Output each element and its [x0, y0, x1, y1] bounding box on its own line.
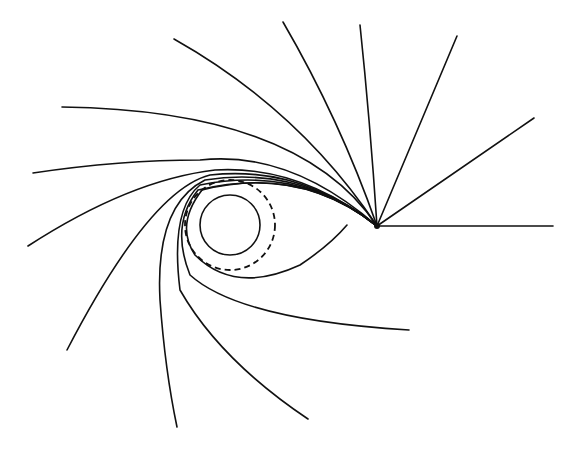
- light-ray-2: [377, 36, 457, 226]
- event-horizon-circle: [200, 195, 260, 255]
- black-hole-light-ray-diagram: [0, 0, 576, 449]
- light-ray-3: [360, 25, 377, 226]
- light-ray-5: [174, 39, 377, 226]
- light-ray-11: [178, 180, 378, 419]
- light-ray-6: [62, 107, 377, 226]
- light-ray-13: [186, 183, 377, 278]
- emitter-point: [374, 223, 380, 229]
- light-rays: [28, 22, 553, 427]
